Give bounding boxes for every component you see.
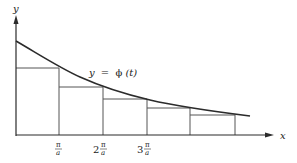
step-rectangles [16,68,235,135]
x-axis-arrow-icon [265,133,274,138]
svg-text:a: a [56,149,60,157]
x-axis: x [16,130,286,141]
x-axis-label: x [280,130,286,141]
svg-text:3: 3 [137,144,143,155]
y-axis: y [12,3,19,136]
step-rect-2 [59,87,103,135]
curve-label: y = ϕ (t) [88,67,137,78]
tick-label-3: 3 π a [137,141,151,157]
step-rect-1 [16,68,59,135]
step-rect-3 [103,99,147,135]
y-axis-label: y [12,3,19,14]
tick-label-2: 2 π a [93,141,107,157]
step-rect-4 [147,108,190,135]
tick-label-1: π a [55,141,62,157]
svg-text:π: π [145,141,150,149]
svg-text:π: π [56,141,61,149]
svg-text:a: a [145,149,149,157]
svg-text:a: a [101,149,105,157]
svg-text:π: π [101,141,106,149]
y-axis-arrow-icon [14,15,19,24]
step-rect-5 [190,115,235,135]
step-function-diagram: y x y = ϕ (t) π a 2 π a 3 π a [0,0,297,163]
curve-phi [16,41,250,116]
svg-text:2: 2 [93,144,99,155]
